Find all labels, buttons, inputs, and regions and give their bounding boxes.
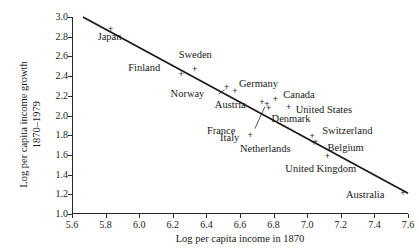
y-tick-label: 1.6	[42, 150, 68, 160]
x-tick	[72, 214, 73, 218]
x-tick-label: 5.8	[91, 220, 121, 230]
data-point-label: Italy	[220, 132, 239, 143]
x-tick	[408, 214, 409, 218]
leader-line-layer	[72, 17, 408, 214]
x-tick	[173, 214, 174, 218]
data-point-label: Belgium	[328, 142, 364, 153]
y-tick-label: 1.4	[42, 170, 68, 180]
x-tick-label: 5.6	[57, 220, 87, 230]
data-point-marker: +	[324, 153, 331, 160]
data-point-marker: +	[263, 101, 270, 108]
x-tick	[341, 214, 342, 218]
data-point-marker: +	[399, 190, 406, 197]
x-tick	[374, 214, 375, 218]
plot-area: 1.01.21.41.61.82.02.22.42.62.83.0 5.65.8…	[72, 17, 408, 214]
leader-line	[255, 107, 265, 129]
x-tick-label: 7.2	[326, 220, 356, 230]
x-tick-label: 6.8	[259, 220, 289, 230]
x-tick-label: 6.4	[191, 220, 221, 230]
x-tick	[240, 214, 241, 218]
data-point-label: Netherlands	[240, 143, 291, 154]
y-tick-label: 1.8	[42, 130, 68, 140]
x-tick	[139, 214, 140, 218]
y-tick-label: 2.2	[42, 91, 68, 101]
x-tick-label: 6.0	[124, 220, 154, 230]
y-tick-label: 2.8	[42, 32, 68, 42]
x-tick-label: 7.4	[359, 220, 389, 230]
x-tick-label: 7.6	[393, 220, 419, 230]
data-point-marker: +	[310, 140, 317, 147]
y-tick-label: 1.2	[42, 189, 68, 199]
y-tick-label: 3.0	[42, 12, 68, 22]
x-tick	[106, 214, 107, 218]
x-tick	[307, 214, 308, 218]
y-tick-label: 1.0	[42, 209, 68, 219]
x-tick	[274, 214, 275, 218]
data-point-label: Australia	[346, 189, 385, 200]
x-tick-label: 7.0	[292, 220, 322, 230]
data-point-label: Switzerland	[322, 125, 372, 136]
data-point-label: United Kingdom	[285, 163, 356, 174]
y-tick-label: 2.4	[42, 71, 68, 81]
y-tick-label: 2.6	[42, 51, 68, 61]
data-point-marker: +	[247, 132, 254, 139]
y-tick-label: 2.0	[42, 111, 68, 121]
x-tick-label: 6.2	[158, 220, 188, 230]
y-axis-title: Log per capita income growth 1870–1979	[18, 25, 43, 225]
x-axis-title: Log per capita income in 1870	[72, 233, 408, 244]
x-tick	[206, 214, 207, 218]
x-tick-label: 6.6	[225, 220, 255, 230]
